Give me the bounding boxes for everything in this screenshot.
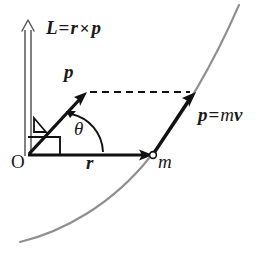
theta-label: θ (74, 119, 83, 138)
angular-momentum-figure: L=r×p p p=mv θ r m O (0, 0, 276, 260)
equals-sign: = (58, 17, 71, 38)
radius-vector-label: r (86, 153, 93, 172)
momentum-vector-label: p (64, 62, 74, 81)
momentum-def-equals: = (208, 104, 221, 125)
angular-momentum-symbol: L (46, 17, 58, 38)
momentum-def-p: p (198, 104, 208, 125)
theta-angle-arc (66, 111, 103, 152)
momentum-symbol: p (92, 17, 102, 38)
momentum-def-mass: m (220, 104, 234, 125)
angular-momentum-arrow (22, 20, 34, 156)
cross-product-icon: × (78, 19, 92, 38)
mass-label: m (158, 152, 172, 171)
momentum-def-velocity: v (234, 104, 242, 125)
radius-symbol: r (70, 17, 77, 38)
diagram-canvas (0, 0, 276, 260)
momentum-tangent-arrow (152, 92, 196, 156)
small-angle-marker (34, 118, 46, 132)
angular-momentum-label: L=r×p (46, 18, 101, 37)
origin-label: O (11, 152, 25, 171)
momentum-definition-label: p=mv (198, 105, 243, 124)
particle-marker (150, 152, 157, 159)
